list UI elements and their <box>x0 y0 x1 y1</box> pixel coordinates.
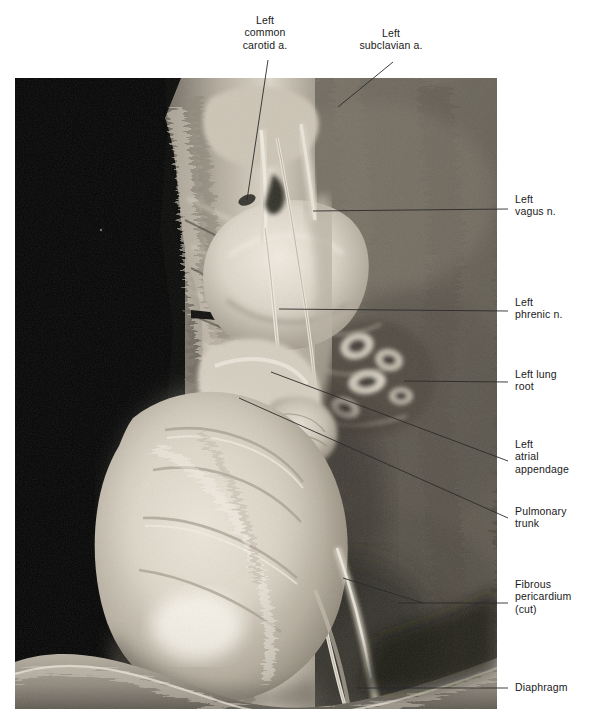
photograph-canvas <box>15 78 497 709</box>
dissection-photograph <box>15 78 497 709</box>
label-left-atrial-appendage: Left atrial appendage <box>515 438 595 475</box>
label-left-lung-root: Left lung root <box>515 368 593 393</box>
anatomy-plate: Left common carotid a. Left subclavian a… <box>0 0 595 726</box>
label-pulmonary-trunk: Pulmonary trunk <box>515 505 595 530</box>
label-diaphragm: Diaphragm <box>515 681 595 693</box>
label-left-phrenic-nerve: Left phrenic n. <box>515 296 593 321</box>
label-left-vagus-nerve: Left vagus n. <box>515 193 593 218</box>
label-fibrous-pericardium-cut: Fibrous pericardium (cut) <box>515 578 595 615</box>
label-left-common-carotid-artery: Left common carotid a. <box>222 14 308 51</box>
label-left-subclavian-artery: Left subclavian a. <box>345 27 437 52</box>
